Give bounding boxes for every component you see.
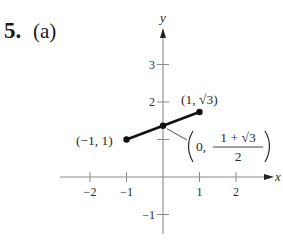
x-ticks: −2−112 <box>84 172 239 199</box>
x-axis-arrow-icon <box>264 174 274 180</box>
problem-part: (a) <box>33 19 56 43</box>
y-tick-label: −1 <box>142 208 155 222</box>
x-tick-label: 1 <box>197 185 203 199</box>
data-point <box>123 136 129 142</box>
left-paren <box>189 131 194 162</box>
data-point <box>160 123 166 129</box>
x-tick-label: −1 <box>120 185 133 199</box>
point-label-right: (1, √3) <box>181 92 218 107</box>
problem-number: 5. <box>4 18 21 43</box>
x-tick-label: 2 <box>233 185 239 199</box>
midpoint-x: 0, <box>196 139 206 154</box>
midpoint-numerator: 1 + √3 <box>220 130 256 145</box>
y-ticks: −123 <box>142 58 169 222</box>
y-tick-label: 3 <box>149 58 155 72</box>
y-tick-label: 2 <box>149 95 155 109</box>
x-axis-label: x <box>274 169 281 184</box>
x-tick-label: −2 <box>84 185 97 199</box>
figure: 5. (a) x y −2−112 −123 (−1, 1) (1, √3) 0… <box>0 0 283 242</box>
leader-line <box>167 129 187 140</box>
midpoint-label: 0, 1 + √3 2 <box>167 129 270 164</box>
midpoint-denominator: 2 <box>235 149 242 164</box>
point-label-left: (−1, 1) <box>76 133 113 148</box>
data-point <box>196 109 202 115</box>
y-axis-label: y <box>158 10 166 25</box>
right-paren <box>265 131 270 162</box>
y-axis-arrow-icon <box>160 28 166 38</box>
